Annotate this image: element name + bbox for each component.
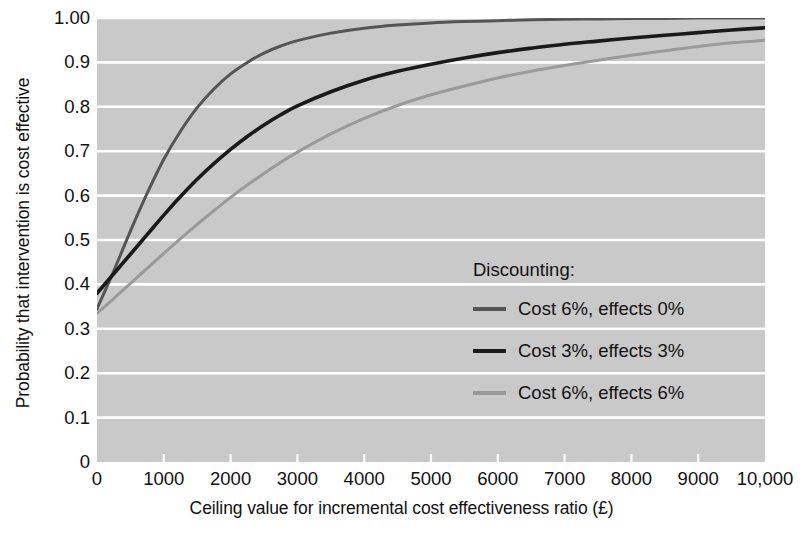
- legend: Discounting: Cost 6%, effects 0%Cost 3%,…: [473, 258, 763, 428]
- x-axis-title: Ceiling value for incremental cost effec…: [0, 498, 803, 519]
- legend-swatch-line-icon: [473, 307, 506, 311]
- y-tick-label: 0.4: [28, 274, 90, 294]
- y-tick-label: 0.3: [28, 319, 90, 339]
- x-tick-label: 5000: [410, 466, 451, 492]
- legend-swatch-line-icon: [473, 349, 506, 353]
- y-tick-label: 0.7: [28, 141, 90, 161]
- x-axis-tick-labels: 010002000300040005000600070008000900010,…: [0, 466, 803, 492]
- series-line-2: [97, 28, 765, 294]
- cost-effectiveness-acceptability-chart: Probability that intervention is cost ef…: [0, 0, 803, 545]
- legend-label: Cost 3%, effects 3%: [518, 338, 684, 364]
- y-tick-label: 0.5: [28, 230, 90, 250]
- legend-swatch-line-icon: [473, 391, 506, 395]
- x-tick-label: 7000: [544, 466, 585, 492]
- x-tick-label: 6000: [477, 466, 518, 492]
- y-tick-label: 0.6: [28, 186, 90, 206]
- y-tick-label: 0.9: [28, 52, 90, 72]
- y-tick-label: 0.2: [28, 363, 90, 383]
- y-tick-label: 0.8: [28, 97, 90, 117]
- y-axis-tick-labels: 00.10.20.30.40.50.60.70.80.91.00: [28, 0, 90, 545]
- x-tick-label: 8000: [611, 466, 652, 492]
- x-tick-label: 1000: [143, 466, 184, 492]
- legend-title: Discounting:: [473, 258, 575, 282]
- x-tick-label: 10,000: [737, 466, 794, 492]
- x-tick-label: 4000: [344, 466, 385, 492]
- y-tick-label: 1.00: [28, 8, 90, 28]
- x-tick-label: 2000: [210, 466, 251, 492]
- x-tick-label: 0: [92, 466, 102, 492]
- y-tick-label: 0.1: [28, 408, 90, 428]
- legend-label: Cost 6%, effects 6%: [518, 380, 684, 406]
- x-tick-label: 9000: [678, 466, 719, 492]
- legend-entry: Cost 6%, effects 6%: [473, 380, 763, 406]
- legend-entry: Cost 6%, effects 0%: [473, 296, 763, 322]
- legend-entry: Cost 3%, effects 3%: [473, 338, 763, 364]
- legend-label: Cost 6%, effects 0%: [518, 296, 684, 322]
- x-tick-label: 3000: [277, 466, 318, 492]
- plot-area: Discounting: Cost 6%, effects 0%Cost 3%,…: [97, 18, 765, 462]
